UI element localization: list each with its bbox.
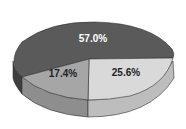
label-57: 57.0% — [79, 33, 107, 44]
label-17-4: 17.4% — [49, 68, 77, 79]
pie-chart: 57.0% 25.6% 17.4% — [0, 0, 186, 129]
label-25-6: 25.6% — [112, 67, 140, 78]
